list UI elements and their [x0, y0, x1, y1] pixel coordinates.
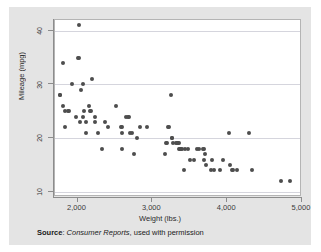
x-axis-title: Weight (lbs.)	[9, 214, 311, 223]
source-publication: Consumer Reports	[67, 228, 130, 237]
data-point	[90, 77, 94, 81]
source-note: Source: Consumer Reports, used with perm…	[37, 228, 204, 237]
x-tick-label-3000: 3,000	[142, 203, 161, 212]
data-point	[77, 56, 81, 60]
data-point	[203, 152, 207, 156]
data-point	[103, 120, 107, 124]
data-point	[210, 158, 214, 162]
data-point	[74, 115, 78, 119]
y-axis-line	[53, 19, 54, 197]
data-point	[279, 179, 283, 183]
gridline-y-10	[55, 192, 300, 193]
y-tick-label-text: 10	[36, 188, 43, 196]
data-point	[100, 147, 104, 151]
data-point	[135, 136, 139, 140]
data-point	[120, 147, 124, 151]
data-point	[106, 125, 110, 129]
data-point	[61, 61, 65, 65]
data-point	[77, 23, 81, 27]
x-tick-mark-5000	[301, 198, 302, 202]
data-point	[96, 131, 100, 135]
data-point	[227, 131, 231, 135]
data-point	[61, 104, 65, 108]
y-tick-mark-20	[48, 137, 53, 138]
x-tick-label-4000: 4,000	[217, 203, 236, 212]
data-point	[81, 82, 85, 86]
data-point	[167, 125, 171, 129]
data-point	[202, 158, 206, 162]
data-point	[67, 109, 71, 113]
x-tick-label-2000: 2,000	[67, 203, 86, 212]
data-point	[63, 125, 67, 129]
data-point	[212, 168, 216, 172]
data-point	[130, 131, 134, 135]
y-tick-mark-10	[48, 191, 53, 192]
data-point	[93, 120, 97, 124]
data-point	[169, 93, 173, 97]
y-tick-label-20: 20	[33, 128, 46, 146]
y-tick-mark-40	[48, 30, 53, 31]
source-label: Source	[37, 228, 62, 237]
data-point	[78, 120, 82, 124]
data-point	[163, 152, 167, 156]
gridline-y-40	[55, 31, 300, 32]
data-point	[120, 131, 124, 135]
data-point	[89, 109, 93, 113]
data-point	[202, 147, 206, 151]
y-tick-label-text: 20	[36, 134, 43, 142]
data-point	[221, 158, 225, 162]
data-point	[235, 168, 239, 172]
data-point	[145, 125, 149, 129]
data-point	[58, 93, 62, 97]
data-point	[165, 141, 169, 145]
y-tick-label-30: 30	[33, 74, 46, 92]
y-tick-label-text: 40	[36, 27, 43, 35]
x-tick-mark-3000	[151, 198, 152, 202]
x-tick-mark-2000	[77, 198, 78, 202]
data-point	[84, 120, 88, 124]
data-point	[79, 88, 83, 92]
data-point	[120, 125, 124, 129]
data-point	[204, 163, 208, 167]
data-point	[186, 147, 190, 151]
data-point	[81, 115, 85, 119]
figure-background: 10203040 Mileage (mpg) 2,0003,0004,0005,…	[9, 7, 311, 245]
x-axis-line	[53, 197, 302, 198]
data-point	[218, 168, 222, 172]
data-point	[114, 104, 118, 108]
data-point	[84, 131, 88, 135]
y-tick-label-10: 10	[33, 182, 46, 200]
y-tick-label-text: 30	[36, 81, 43, 89]
data-point	[170, 136, 174, 140]
data-point	[138, 125, 142, 129]
data-point	[182, 168, 186, 172]
data-point	[250, 168, 254, 172]
y-tick-mark-30	[48, 83, 53, 84]
plot-canvas	[55, 20, 300, 195]
data-point	[177, 141, 181, 145]
data-point	[228, 163, 232, 167]
data-point	[82, 109, 86, 113]
data-point	[192, 158, 196, 162]
y-tick-label-40: 40	[33, 21, 46, 39]
source-suffix: , used with permission	[130, 228, 204, 237]
y-axis-title: Mileage (mpg)	[17, 52, 26, 100]
plot-area	[54, 19, 301, 196]
x-tick-label-5000: 5,000	[292, 203, 311, 212]
gridline-y-20	[55, 138, 300, 139]
data-point	[132, 152, 136, 156]
data-point	[87, 104, 91, 108]
x-tick-mark-4000	[226, 198, 227, 202]
gridline-y-30	[55, 84, 300, 85]
data-point	[93, 115, 97, 119]
data-point	[127, 115, 131, 119]
data-point	[247, 131, 251, 135]
data-point	[288, 179, 292, 183]
data-point	[70, 82, 74, 86]
